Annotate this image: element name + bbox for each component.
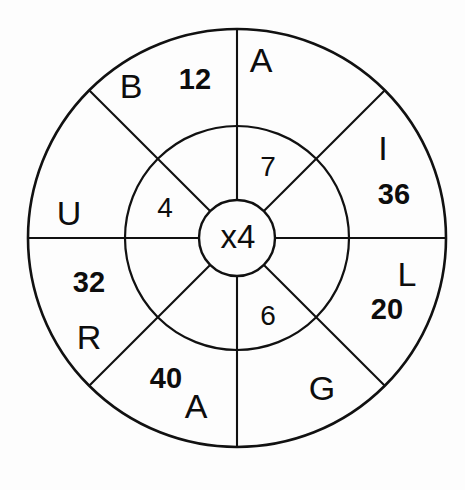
middle-ring-value-6: 6 [260, 300, 276, 331]
outer-letter-r: R [77, 318, 102, 356]
spoke-northwest [89, 90, 210, 211]
outer-letter-a-bottom: A [185, 387, 208, 425]
outer-letter-u: U [57, 194, 82, 232]
center-operation-label: x4 [221, 218, 256, 255]
spoke-northeast [264, 90, 385, 211]
outer-letter-b: B [120, 67, 143, 105]
outer-number-32: 32 [73, 266, 105, 298]
outer-number-40: 40 [150, 362, 182, 394]
outer-number-20: 20 [371, 293, 403, 325]
spoke-southeast [264, 265, 385, 386]
multiplication-wheel-figure: x4 7 4 6 A B U R A G L I 12 32 40 20 36 [0, 0, 465, 490]
wheel-canvas: x4 7 4 6 A B U R A G L I 12 32 40 20 36 [0, 0, 465, 490]
outer-number-36: 36 [378, 178, 410, 210]
outer-letter-a-top: A [250, 41, 273, 79]
outer-letter-l: L [398, 255, 417, 293]
outer-letter-i: I [378, 129, 387, 167]
middle-ring-value-7: 7 [260, 151, 276, 182]
middle-ring-value-4: 4 [157, 192, 173, 223]
outer-number-12: 12 [179, 63, 211, 95]
outer-letter-g: G [309, 369, 335, 407]
